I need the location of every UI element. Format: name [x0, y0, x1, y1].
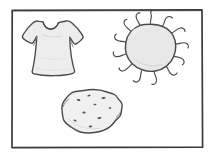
- sketch-canvas: [0, 0, 213, 160]
- sun-disc: [125, 24, 175, 71]
- sketch-panel-root: Hand-drawn sketch panel Pencil sketch of…: [0, 0, 213, 160]
